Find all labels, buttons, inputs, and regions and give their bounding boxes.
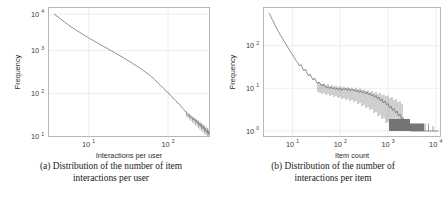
svg-text:10: 10 <box>334 140 342 149</box>
svg-text:10: 10 <box>31 46 39 55</box>
y-tick-labels-a: 10 4 10 3 10 2 10 1 <box>31 8 44 141</box>
figure-root: 10 4 10 3 10 2 10 1 10 <box>0 0 445 207</box>
svg-text:1: 1 <box>296 138 299 144</box>
svg-text:10: 10 <box>246 84 254 93</box>
svg-text:3: 3 <box>392 138 395 144</box>
x-axis-label-b: Item count <box>335 151 369 160</box>
y-tick-a-4: 10 4 <box>31 8 44 19</box>
y-tick-b-0: 10 0 <box>246 125 259 136</box>
caption-a-line1: (a) Distribution of the number of item <box>6 160 216 172</box>
y-tick-a-1: 10 1 <box>31 131 44 142</box>
x-axis-label-a: Interactions per user <box>96 151 163 160</box>
svg-text:0: 0 <box>256 125 259 131</box>
x-tick-labels-b: 10 1 10 2 10 3 10 4 <box>286 138 442 149</box>
x-tick-labels-a: 10 1 10 2 <box>82 138 175 149</box>
svg-text:2: 2 <box>172 138 175 144</box>
caption-a: (a) Distribution of the number of item i… <box>6 160 216 184</box>
caption-b: (b) Distribution of the number of intera… <box>228 160 438 184</box>
x-tick-b-3: 10 3 <box>381 138 394 149</box>
svg-text:1: 1 <box>92 138 95 144</box>
x-tick-a-1: 10 1 <box>82 138 95 149</box>
plot-area-a <box>49 8 210 137</box>
svg-text:10: 10 <box>246 127 254 136</box>
svg-text:2: 2 <box>41 88 44 94</box>
x-tick-b-2: 10 2 <box>334 138 347 149</box>
svg-text:10: 10 <box>286 140 294 149</box>
caption-b-line2: interactions per item <box>228 172 438 184</box>
x-tick-b-1: 10 1 <box>286 138 299 149</box>
chart-b: 10 2 10 1 10 0 10 1 10 <box>222 0 445 160</box>
y-tick-a-3: 10 3 <box>31 45 44 56</box>
svg-text:1: 1 <box>256 82 259 88</box>
svg-text:10: 10 <box>31 89 39 98</box>
svg-text:4: 4 <box>439 138 442 144</box>
svg-text:10: 10 <box>246 41 254 50</box>
y-tick-b-1: 10 1 <box>246 82 259 93</box>
svg-text:2: 2 <box>344 138 347 144</box>
y-axis-label-b: Frequency <box>228 54 237 89</box>
svg-text:10: 10 <box>429 140 437 149</box>
x-tick-a-2: 10 2 <box>161 138 174 149</box>
caption-b-line1: (b) Distribution of the number of <box>228 160 438 172</box>
svg-text:3: 3 <box>41 45 44 51</box>
svg-text:10: 10 <box>381 140 389 149</box>
svg-text:10: 10 <box>31 10 39 19</box>
chart-a: 10 4 10 3 10 2 10 1 10 <box>0 0 222 160</box>
svg-text:10: 10 <box>82 140 90 149</box>
svg-text:2: 2 <box>256 40 259 46</box>
plot-area-b <box>264 8 441 137</box>
subfigure-b: 10 2 10 1 10 0 10 1 10 <box>222 0 444 207</box>
x-tick-b-4: 10 4 <box>429 138 442 149</box>
subfigure-a: 10 4 10 3 10 2 10 1 10 <box>0 0 222 207</box>
y-tick-b-2: 10 2 <box>246 40 259 51</box>
caption-a-line2: interactions per user <box>6 172 216 184</box>
y-tick-a-2: 10 2 <box>31 88 44 99</box>
svg-text:10: 10 <box>31 132 39 141</box>
svg-text:10: 10 <box>161 140 169 149</box>
y-tick-labels-b: 10 2 10 1 10 0 <box>246 40 259 136</box>
y-axis-label-a: Frequency <box>13 54 22 89</box>
svg-text:1: 1 <box>41 131 44 137</box>
svg-text:4: 4 <box>41 8 44 14</box>
